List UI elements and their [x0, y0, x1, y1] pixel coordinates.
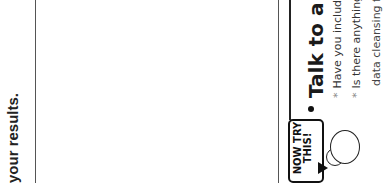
- results-text-fragment: your results.: [4, 93, 21, 183]
- column-divider-left: [35, 0, 36, 183]
- column-divider-right: [278, 0, 279, 183]
- speech-bubble-tail-icon: [318, 162, 328, 174]
- tip-item: *Is there anything: [350, 0, 363, 98]
- badge-text: NOW TRY THIS!: [293, 119, 313, 177]
- tip-item-continuation: data cleansing fo: [370, 0, 383, 86]
- asterisk-bullet-icon: *: [331, 93, 344, 99]
- heading-bullet-icon: [308, 106, 314, 112]
- asterisk-bullet-icon: *: [350, 93, 363, 99]
- character-face-icon: [330, 130, 360, 164]
- tip-item-text: Is there anything: [350, 0, 363, 89]
- tip-item: *Have you includ: [331, 0, 344, 98]
- tip-item-text: Have you includ: [331, 0, 344, 89]
- tip-box-border: [289, 0, 291, 120]
- badge-line2: THIS!: [302, 133, 313, 164]
- tip-heading: Talk to a pa: [304, 0, 328, 98]
